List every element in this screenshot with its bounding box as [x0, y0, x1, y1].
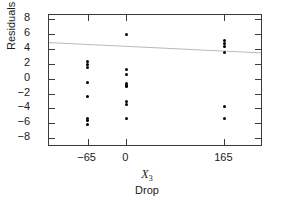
- y-tick-mark: [49, 123, 55, 124]
- x-axis-variable-name: Drop: [135, 184, 159, 196]
- y-tick-mark-right: [255, 94, 261, 95]
- data-point: [86, 66, 89, 69]
- residual-scatter-plot-figure: −8−6−4−202468 −650165 Residuals X3 Drop: [0, 0, 282, 201]
- y-tick-mark-right: [255, 123, 261, 124]
- data-point: [86, 123, 89, 126]
- data-point: [86, 119, 89, 122]
- y-tick-mark-right: [255, 49, 261, 50]
- x-tick-mark: [126, 139, 127, 145]
- y-tick-label: 4: [24, 42, 30, 53]
- y-tick-mark: [49, 34, 55, 35]
- data-point: [223, 105, 226, 108]
- data-point: [223, 51, 226, 54]
- data-point: [223, 117, 226, 120]
- x-tick-mark-top: [224, 15, 225, 21]
- data-point: [125, 68, 128, 71]
- plot-frame: [48, 14, 262, 146]
- y-tick-mark: [49, 19, 55, 20]
- y-tick-label: 0: [24, 72, 30, 83]
- y-tick-mark: [49, 49, 55, 50]
- data-point: [125, 33, 128, 36]
- x-tick-mark-top: [126, 15, 127, 21]
- y-tick-mark-right: [255, 19, 261, 20]
- data-point: [125, 117, 128, 120]
- y-tick-mark: [49, 94, 55, 95]
- x-tick-mark: [224, 139, 225, 145]
- data-point: [125, 85, 128, 88]
- y-tick-label: −6: [17, 116, 30, 127]
- x-tick-label: 165: [193, 152, 253, 163]
- x-axis-variable-symbol: X3: [141, 167, 152, 181]
- y-tick-mark: [49, 79, 55, 80]
- y-tick-label: −8: [17, 131, 30, 142]
- y-axis-title: Residuals: [6, 36, 17, 50]
- y-tick-label: 8: [24, 12, 30, 23]
- x-axis-variable-subscript: 3: [149, 174, 153, 183]
- x-axis-title: X3 Drop: [112, 168, 182, 196]
- y-tick-mark-right: [255, 34, 261, 35]
- x-tick-label: 0: [95, 152, 155, 163]
- x-tick-mark-top: [88, 15, 89, 21]
- data-point: [125, 73, 128, 76]
- data-point: [125, 103, 128, 106]
- y-tick-label: 2: [24, 57, 30, 68]
- data-point: [86, 81, 89, 84]
- y-tick-mark-right: [255, 108, 261, 109]
- y-tick-mark: [49, 138, 55, 139]
- y-tick-label: −2: [17, 87, 30, 98]
- data-point: [86, 95, 89, 98]
- data-point: [223, 45, 226, 48]
- y-tick-mark: [49, 108, 55, 109]
- y-tick-label: −4: [17, 101, 30, 112]
- y-tick-mark-right: [255, 79, 261, 80]
- y-tick-mark-right: [255, 138, 261, 139]
- y-tick-mark: [49, 64, 55, 65]
- x-tick-mark: [88, 139, 89, 145]
- y-tick-label: 6: [24, 27, 30, 38]
- y-tick-mark-right: [255, 64, 261, 65]
